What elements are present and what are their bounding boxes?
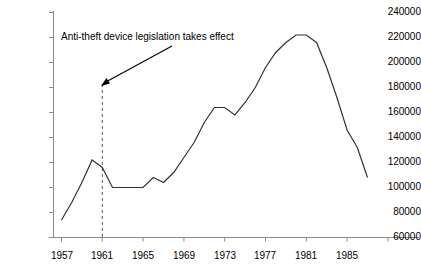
x-axis-ticks [62,238,388,242]
data-series-line [62,35,368,220]
y-axis-ticks [49,13,53,238]
annotation-label: Anti-theft device legislation takes effe… [61,31,234,42]
annotation-arrow-icon [101,46,172,86]
line-chart: 240000 220000 200000 180000 160000 14000… [0,0,421,269]
